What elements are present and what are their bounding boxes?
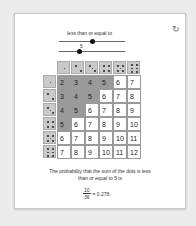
- table-cell: 3: [71, 75, 85, 89]
- pip-icon: [47, 135, 49, 137]
- applet-card: ↻ less than or equal to 5 23456734567845…: [14, 13, 186, 209]
- pip-icon: [52, 140, 54, 142]
- pip-icon: [52, 98, 54, 100]
- pip-icon: [47, 121, 49, 123]
- table-cell: 2: [57, 75, 71, 89]
- slider-bottom[interactable]: [59, 51, 125, 52]
- pip-icon: [64, 68, 66, 70]
- table-cell: 8: [127, 89, 141, 103]
- table-cell: 6: [85, 103, 99, 117]
- table-cell: 5: [71, 103, 85, 117]
- pip-icon: [122, 70, 124, 72]
- table-cell: 7: [99, 103, 113, 117]
- table-cell: 8: [85, 131, 99, 145]
- slider-bottom-value: 5: [80, 43, 83, 49]
- die-face-2-icon: [43, 89, 56, 102]
- die-face-6-icon: [43, 145, 56, 158]
- table-cell: 7: [85, 117, 99, 131]
- pip-icon: [131, 71, 133, 73]
- table-cell: 9: [99, 131, 113, 145]
- table-cell: 11: [127, 131, 141, 145]
- table-cell: 6: [57, 131, 71, 145]
- pip-icon: [92, 68, 94, 70]
- pip-icon: [103, 65, 105, 67]
- pip-icon: [47, 155, 49, 157]
- pip-icon: [131, 64, 133, 66]
- table-cell: 4: [71, 89, 85, 103]
- fraction: 10 36: [83, 187, 91, 200]
- table-cell: 5: [57, 117, 71, 131]
- table-cell: 9: [85, 145, 99, 159]
- table-cell: 8: [113, 103, 127, 117]
- pip-icon: [47, 152, 49, 154]
- pip-icon: [47, 93, 49, 95]
- fraction-denominator: 36: [84, 194, 90, 200]
- table-cell: 7: [113, 89, 127, 103]
- reset-icon[interactable]: ↻: [171, 24, 181, 34]
- table-cell: 6: [71, 117, 85, 131]
- pip-icon: [117, 70, 119, 72]
- table-cell: 10: [113, 131, 127, 145]
- pip-icon: [47, 148, 49, 150]
- table-cell: 5: [85, 89, 99, 103]
- slider-bottom-knob[interactable]: [77, 49, 82, 54]
- pip-icon: [47, 140, 49, 142]
- table-cell: 3: [57, 89, 71, 103]
- pip-icon: [47, 107, 49, 109]
- table-cell: 7: [127, 75, 141, 89]
- pip-icon: [52, 148, 54, 150]
- fraction-result: = 0.278.: [93, 191, 111, 197]
- pip-icon: [131, 68, 133, 70]
- table-cell: 10: [99, 145, 113, 159]
- table-cell: 10: [127, 117, 141, 131]
- table-cell: 12: [127, 145, 141, 159]
- pip-icon: [50, 110, 52, 112]
- table-cell: 8: [71, 145, 85, 159]
- table-cell: 9: [113, 117, 127, 131]
- table-cell: 5: [99, 75, 113, 89]
- pip-icon: [47, 126, 49, 128]
- slider-top-knob[interactable]: [90, 39, 95, 44]
- die-face-4-icon: [99, 61, 112, 74]
- pip-icon: [136, 64, 138, 66]
- die-face-5-icon: [113, 61, 126, 74]
- fraction-numerator: 10: [83, 187, 91, 194]
- table-cell: 6: [99, 89, 113, 103]
- pip-icon: [117, 65, 119, 67]
- pip-icon: [52, 112, 54, 114]
- slider-top-label: less than or equal to: [67, 30, 112, 36]
- die-face-3-icon: [85, 61, 98, 74]
- die-face-4-icon: [43, 117, 56, 130]
- probability-caption: The probability that the sum of the dots…: [45, 168, 155, 182]
- table-cell: 8: [99, 117, 113, 131]
- die-face-6-icon: [127, 61, 140, 74]
- probability-result: 10 36 = 0.278.: [83, 187, 111, 200]
- pip-icon: [75, 65, 77, 67]
- table-cell: 7: [57, 145, 71, 159]
- die-face-1-icon: [43, 75, 56, 88]
- table-cell: 9: [127, 103, 141, 117]
- table-cell: 4: [57, 103, 71, 117]
- pip-icon: [122, 65, 124, 67]
- table-cell: 7: [71, 131, 85, 145]
- pip-icon: [80, 70, 82, 72]
- table-cell: 4: [85, 75, 99, 89]
- pip-icon: [52, 155, 54, 157]
- pip-icon: [52, 135, 54, 137]
- pip-icon: [52, 126, 54, 128]
- pip-icon: [52, 152, 54, 154]
- pip-icon: [136, 68, 138, 70]
- die-face-1-icon: [57, 61, 70, 74]
- pip-icon: [108, 70, 110, 72]
- pip-icon: [136, 71, 138, 73]
- pip-icon: [50, 138, 52, 140]
- table-cell: 6: [113, 75, 127, 89]
- pip-icon: [94, 70, 96, 72]
- pip-icon: [89, 65, 91, 67]
- slider-top[interactable]: [59, 41, 125, 42]
- die-face-5-icon: [43, 131, 56, 144]
- pip-icon: [120, 68, 122, 70]
- pip-icon: [103, 70, 105, 72]
- pip-icon: [108, 65, 110, 67]
- pip-icon: [50, 82, 52, 84]
